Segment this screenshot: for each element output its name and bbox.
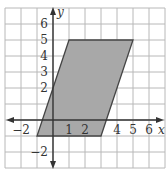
coordinate-plane: −21245665432−2 x y [0, 0, 167, 171]
svg-text:4: 4 [40, 49, 48, 63]
svg-text:−2: −2 [12, 123, 30, 137]
svg-text:2: 2 [81, 123, 89, 137]
svg-text:6: 6 [145, 123, 153, 137]
svg-text:4: 4 [113, 123, 121, 137]
y-axis-label: y [56, 5, 64, 19]
svg-text:3: 3 [40, 65, 48, 79]
svg-text:5: 5 [40, 33, 48, 47]
svg-text:2: 2 [40, 81, 48, 95]
x-axis-label: x [158, 123, 165, 137]
svg-text:1: 1 [65, 123, 73, 137]
svg-text:6: 6 [40, 17, 48, 31]
svg-text:5: 5 [129, 123, 137, 137]
svg-text:−2: −2 [30, 145, 48, 159]
